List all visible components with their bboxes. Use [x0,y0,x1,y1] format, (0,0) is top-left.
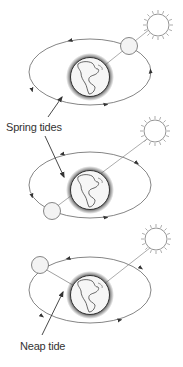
earth-icon [66,166,114,214]
moon-icon [121,38,138,55]
earth-icon [66,53,114,101]
spring-tides-arrow-up [48,97,62,117]
spring-tides-arrow-down [45,136,64,177]
diagram-neap-tide [29,224,171,323]
moon-icon [32,257,49,274]
spring-tides-label: Spring tides [6,121,62,133]
sun-icon [143,10,173,40]
sun-icon [141,224,171,254]
neap-tide-label: Neap tide [20,340,65,352]
moon-icon [44,203,61,220]
sun-icon [140,116,170,146]
earth-icon [66,271,114,319]
diagram-spring-tide-1 [29,10,173,105]
neap-tide-arrow [42,292,63,335]
tides-diagram [0,0,183,367]
